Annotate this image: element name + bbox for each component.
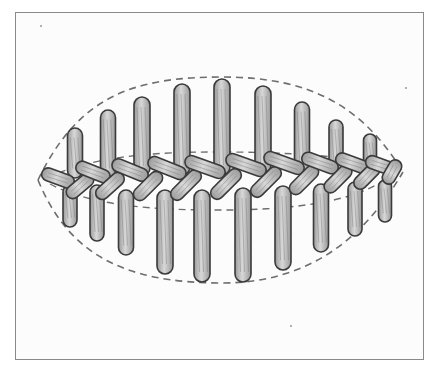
fishbone-stitch-illustration <box>0 0 431 378</box>
scan-speck <box>405 87 407 89</box>
lower-stitch <box>194 190 210 282</box>
lower-stitch <box>348 182 362 236</box>
lower-stitch <box>157 190 173 274</box>
scan-speck <box>40 25 42 27</box>
lower-stitch <box>379 180 392 222</box>
scan-speck <box>290 325 292 327</box>
lower-stitch <box>235 188 251 282</box>
lower-stitch <box>119 190 134 255</box>
lower-stitch <box>275 186 291 270</box>
lower-stitch <box>314 184 329 252</box>
lower-stitches <box>63 180 392 282</box>
